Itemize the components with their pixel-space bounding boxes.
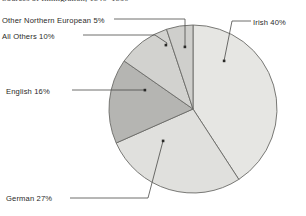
pie-slices	[109, 25, 277, 193]
leader-dot-german	[162, 140, 165, 143]
pie-label-other-northern-european: Other Northern European 5%	[2, 16, 105, 25]
pie-label-irish: Irish 40%	[253, 18, 286, 27]
pie-label-english: English 16%	[6, 87, 50, 96]
leader-dot-other-northern-european	[184, 46, 187, 49]
leader-dot-english	[144, 89, 147, 92]
pie-label-german: German 27%	[6, 194, 52, 203]
pie-chart-figure: Sources of Immigration, 1840–1860	[0, 0, 306, 216]
leader-dot-irish	[223, 60, 226, 63]
leader-dot-all-others	[165, 44, 168, 47]
pie-label-all-others: All Others 10%	[2, 32, 55, 41]
